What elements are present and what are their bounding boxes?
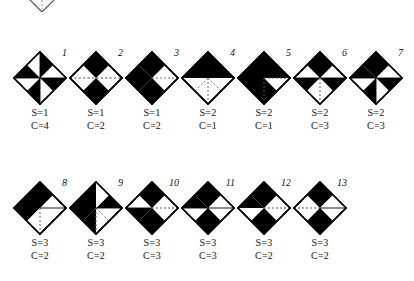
tile-caption-2: S=1 C=2 xyxy=(68,106,124,132)
tile-c-label-4: C=1 xyxy=(180,119,236,132)
tile-9[interactable]: 9 S=3 C=2 xyxy=(68,180,124,266)
tile-index-7: 7 xyxy=(398,48,403,58)
tile-s-label-5: S=2 xyxy=(236,106,292,119)
tile-glyph-5 xyxy=(236,50,292,106)
tile-glyph-6 xyxy=(292,50,348,106)
tile-glyph-10 xyxy=(124,180,180,236)
tile-caption-4: S=2 C=1 xyxy=(180,106,236,132)
tile-c-label-2: C=2 xyxy=(68,119,124,132)
tile-2[interactable]: 2 S=1 C=2 xyxy=(68,50,124,136)
tile-7[interactable]: 7 S=2 C=3 xyxy=(348,50,404,136)
tile-c-label-7: C=3 xyxy=(348,119,404,132)
tile-10[interactable]: 10 S=3 C=3 xyxy=(124,180,180,266)
tile-caption-7: S=2 C=3 xyxy=(348,106,404,132)
tile-index-5: 5 xyxy=(286,48,291,58)
tile-caption-1: S=1 C=4 xyxy=(12,106,68,132)
tile-c-label-1: C=4 xyxy=(12,119,68,132)
tile-caption-12: S=3 C=2 xyxy=(236,236,292,262)
tile-glyph-13 xyxy=(292,180,348,236)
tile-s-label-12: S=3 xyxy=(236,236,292,249)
tile-4[interactable]: 4 S=2 C=1 xyxy=(180,50,236,136)
tile-c-label-13: C=2 xyxy=(292,249,348,262)
tile-s-label-3: S=1 xyxy=(124,106,180,119)
tile-index-12: 12 xyxy=(281,178,291,188)
tile-6[interactable]: 6 S=2 C=3 xyxy=(292,50,348,136)
tile-c-label-8: C=2 xyxy=(12,249,68,262)
tile-glyph-12 xyxy=(236,180,292,236)
tile-index-4: 4 xyxy=(230,48,235,58)
tile-index-9: 9 xyxy=(118,178,123,188)
tile-glyph-11 xyxy=(180,180,236,236)
tile-glyph-8 xyxy=(12,180,68,236)
tile-c-label-3: C=2 xyxy=(124,119,180,132)
tile-index-1: 1 xyxy=(62,48,67,58)
tile-caption-6: S=2 C=3 xyxy=(292,106,348,132)
tile-caption-9: S=3 C=2 xyxy=(68,236,124,262)
tile-c-label-10: C=3 xyxy=(124,249,180,262)
tile-3[interactable]: 3 S=1 C=2 xyxy=(124,50,180,136)
tile-c-label-12: C=2 xyxy=(236,249,292,262)
tile-12[interactable]: 12 S=3 C=2 xyxy=(236,180,292,266)
tile-caption-13: S=3 C=2 xyxy=(292,236,348,262)
tile-5[interactable]: 5 S=2 C=1 xyxy=(236,50,292,136)
tile-caption-5: S=2 C=1 xyxy=(236,106,292,132)
tile-s-label-8: S=3 xyxy=(12,236,68,249)
tile-s-label-6: S=2 xyxy=(292,106,348,119)
tile-1[interactable]: 1 S=1 C=4 xyxy=(12,50,68,136)
tile-caption-10: S=3 C=3 xyxy=(124,236,180,262)
tile-caption-11: S=3 C=3 xyxy=(180,236,236,262)
tile-c-label-11: C=3 xyxy=(180,249,236,262)
tile-glyph-1 xyxy=(12,50,68,106)
tile-13[interactable]: 13 S=3 C=2 xyxy=(292,180,348,266)
figure-canvas: 1 S=1 C=4 2 S=1 C=2 xyxy=(0,0,414,281)
tile-index-8: 8 xyxy=(62,178,67,188)
tile-glyph-9 xyxy=(68,180,124,236)
tile-index-2: 2 xyxy=(118,48,123,58)
tile-index-6: 6 xyxy=(342,48,347,58)
tile-s-label-4: S=2 xyxy=(180,106,236,119)
tile-s-label-10: S=3 xyxy=(124,236,180,249)
tile-c-label-5: C=1 xyxy=(236,119,292,132)
tile-s-label-7: S=2 xyxy=(348,106,404,119)
cropped-diamond-top-icon xyxy=(16,0,68,12)
tile-caption-8: S=3 C=2 xyxy=(12,236,68,262)
tile-caption-3: S=1 C=2 xyxy=(124,106,180,132)
tile-glyph-2 xyxy=(68,50,124,106)
tile-glyph-4 xyxy=(180,50,236,106)
tile-index-10: 10 xyxy=(169,178,179,188)
tile-index-11: 11 xyxy=(226,178,235,188)
tile-s-label-13: S=3 xyxy=(292,236,348,249)
tile-8[interactable]: 8 S=3 C=2 xyxy=(12,180,68,266)
tile-glyph-7 xyxy=(348,50,404,106)
tile-c-label-9: C=2 xyxy=(68,249,124,262)
tile-s-label-1: S=1 xyxy=(12,106,68,119)
tile-index-3: 3 xyxy=(174,48,179,58)
tile-11[interactable]: 11 S=3 C=3 xyxy=(180,180,236,266)
tile-s-label-2: S=1 xyxy=(68,106,124,119)
tile-glyph-3 xyxy=(124,50,180,106)
tile-c-label-6: C=3 xyxy=(292,119,348,132)
tile-s-label-9: S=3 xyxy=(68,236,124,249)
tile-index-13: 13 xyxy=(337,178,347,188)
tile-s-label-11: S=3 xyxy=(180,236,236,249)
